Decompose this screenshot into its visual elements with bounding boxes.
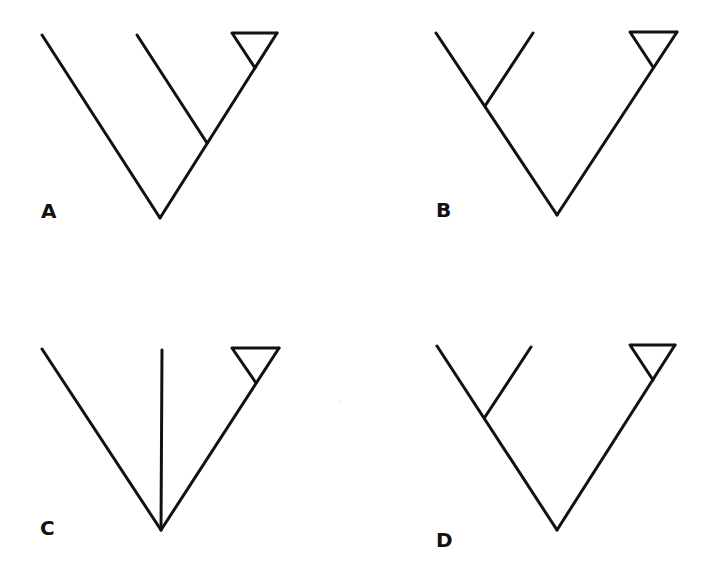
collapsed-clade-triangle-b <box>630 32 677 67</box>
cladogram-drawing <box>0 0 710 566</box>
speck <box>340 401 341 402</box>
panel-label-b: B <box>436 200 451 220</box>
branch-a-right <box>160 33 277 218</box>
branch-b-inner <box>485 33 533 106</box>
panel-label-c: C <box>40 518 55 538</box>
panel-label-d: D <box>436 530 453 550</box>
panel-label-a: A <box>41 201 56 221</box>
collapsed-clade-triangle-c <box>232 348 279 383</box>
collapsed-clade-triangle-d <box>630 345 675 380</box>
collapsed-clade-triangle-a <box>232 33 277 68</box>
cladogram-d <box>437 345 675 530</box>
cladogram-c <box>42 348 279 530</box>
branch-a-left <box>42 35 160 218</box>
branch-d-left <box>437 346 557 530</box>
cladogram-b <box>436 32 677 215</box>
branch-d-inner <box>485 347 531 417</box>
branch-a-middle <box>137 35 207 143</box>
cladogram-figure: A B C D <box>0 0 710 566</box>
cladogram-a <box>42 33 277 218</box>
branch-b-left <box>436 33 557 215</box>
branch-c-vertical <box>161 350 162 530</box>
branch-c-left <box>42 349 161 530</box>
branch-d-right <box>557 345 675 530</box>
branch-c-right <box>161 348 279 530</box>
branch-b-right <box>557 32 677 215</box>
